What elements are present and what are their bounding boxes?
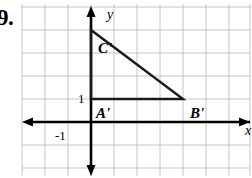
y-axis-tick-label-one: 1 — [78, 92, 85, 105]
vertex-label-c-prime: C' — [98, 41, 112, 56]
triangle-a-b-c-prime — [22, 4, 250, 176]
vertex-label-b-prime: B' — [190, 106, 204, 121]
y-axis-label: y — [107, 8, 113, 22]
figure-container: 9. — [0, 0, 252, 178]
x-axis-tick-label-negative-one: -1 — [55, 129, 66, 142]
x-axis-label: x — [245, 124, 251, 138]
vertex-label-a-prime: A' — [96, 106, 110, 121]
problem-number: 9. — [0, 6, 13, 29]
coordinate-plane — [22, 4, 250, 176]
